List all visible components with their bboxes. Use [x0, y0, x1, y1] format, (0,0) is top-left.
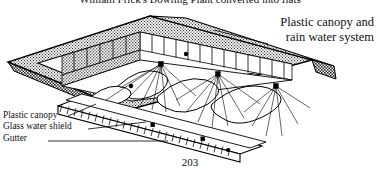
- scanned-page: William Frick's Bowling Plant converted …: [0, 0, 380, 174]
- annotation-right-line1: Plastic canopy and: [234, 15, 374, 30]
- annotation-right: Plastic canopy and rain water system: [234, 15, 374, 45]
- annotation-left-group: Plastic canopy Glass water shield Gutter: [3, 110, 72, 144]
- annotation-gutter: Gutter: [3, 133, 72, 144]
- annotation-glass-water-shield: Glass water shield: [3, 121, 72, 132]
- annotation-plastic-canopy: Plastic canopy: [3, 110, 72, 121]
- page-number: 203: [0, 156, 380, 168]
- annotation-right-line2: rain water system: [234, 30, 374, 45]
